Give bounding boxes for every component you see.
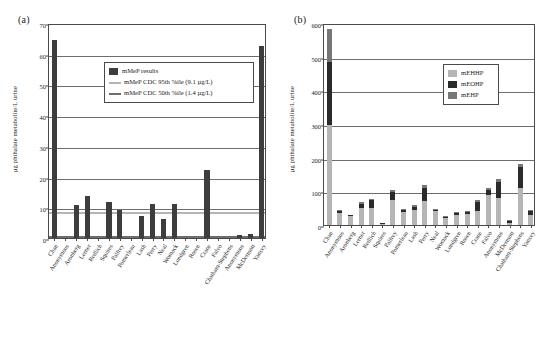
bar-palfrey (390, 25, 395, 225)
bar-segment-mehhp (337, 213, 342, 225)
bar-segment-mehhp (528, 215, 533, 225)
bar-segment-mehhp (465, 214, 470, 225)
panel-a-bars (49, 25, 265, 238)
bar-segment-meohp (327, 62, 332, 125)
x-tick-mark (262, 238, 263, 241)
bar-chatham-stephens (518, 25, 523, 225)
x-tick-mark (76, 238, 77, 241)
bar-segment-mehp (475, 200, 480, 202)
y-tick-mark (46, 178, 49, 179)
bar-segment-meohp (518, 167, 523, 188)
x-tick-mark (131, 238, 132, 241)
bar-segment-meohp (433, 210, 438, 211)
legend-item-cdc-95th: mMeP CDC 95th %ile (9.1 µg/L) (109, 77, 248, 88)
legend-item-mmep-results: mMeP results (109, 66, 248, 77)
bar-segment-mehp (422, 185, 427, 188)
bar-segment-mehhp (369, 208, 374, 226)
bar-segment-mehhp (390, 200, 395, 225)
x-tick-mark (207, 238, 208, 241)
bar-anonymous (237, 25, 242, 238)
x-tick-mark (120, 238, 121, 241)
bar-segment-meohp (475, 202, 480, 210)
bar-segment-meohp (454, 213, 459, 215)
x-tick-mark (499, 225, 500, 228)
bar-segment-mehp (359, 202, 364, 203)
y-tick-mark (46, 55, 49, 56)
bar-segment-mehhp (412, 210, 417, 225)
y-tick-mark (46, 240, 49, 241)
bar-segment-mehp (496, 179, 501, 182)
legend-label: mEHP (461, 92, 479, 99)
bar-segment-mehhp (359, 208, 364, 225)
bar-rosen (465, 25, 470, 225)
x-tick-mark (340, 225, 341, 228)
y-tick-mark (321, 58, 324, 59)
x-tick-mark (467, 225, 468, 228)
legend-label: mMeP results (122, 68, 158, 75)
x-tick-mark (446, 225, 447, 228)
bar-segment-mmep results (259, 46, 264, 238)
bar-redlich (369, 25, 374, 225)
bar-segment-mehhp (486, 195, 491, 225)
x-tick-mark (251, 238, 252, 241)
bar-segment-meohp (390, 192, 395, 200)
bar-segment-mehp (528, 210, 533, 211)
bar-yancey (259, 25, 264, 238)
bar-palfrey (117, 25, 122, 238)
x-tick-mark (361, 225, 362, 228)
bar-segment-mehp (486, 188, 491, 190)
bar-squires (106, 25, 111, 238)
legend-line-icon (109, 82, 121, 84)
bar-anonymous (63, 25, 68, 238)
x-tick-mark (218, 238, 219, 241)
x-tick-mark (351, 225, 352, 228)
bar-aronberg (348, 25, 353, 225)
bar-segment-mehhp (433, 211, 438, 225)
bar-pomerleau (128, 25, 133, 238)
y-tick-mark (321, 25, 324, 26)
y-tick-mark (46, 25, 49, 26)
x-tick-mark (98, 238, 99, 241)
legend-swatch-icon (448, 70, 457, 77)
bar-perry (150, 25, 155, 238)
panel-a: (a) µg phthalate metabolite/L urine 0102… (0, 0, 275, 340)
x-tick-mark (510, 225, 511, 228)
legend-item-mehp: mEHP (448, 90, 493, 101)
bar-lerner (359, 25, 364, 225)
y-tick-mark (46, 147, 49, 148)
bar-falvo (215, 25, 220, 238)
x-tick-mark (229, 238, 230, 241)
bar-segment-mmep results (117, 210, 122, 238)
bar-segment-mehp (412, 205, 417, 206)
bar-segment-mmep results (172, 204, 177, 238)
x-tick-mark (196, 238, 197, 241)
bar-pomerleau (401, 25, 406, 225)
bar-crane (475, 25, 480, 225)
bar-segment-meohp (337, 211, 342, 213)
x-tick-mark (457, 225, 458, 228)
x-tick-mark (414, 225, 415, 228)
bar-segment-mehp (507, 220, 512, 221)
bar-segment-mehp (518, 164, 523, 167)
bar-segment-meohp (369, 200, 374, 207)
bar-neal (433, 25, 438, 225)
legend-label: mEHHP (461, 70, 483, 77)
x-tick-mark (153, 238, 154, 241)
bar-segment-meohp (496, 182, 501, 199)
bar-segment-mehhp (422, 201, 427, 225)
legend-label: mMeP CDC 95th %ile (9.1 µg/L) (124, 79, 213, 86)
bar-segment-mehp (390, 190, 395, 192)
legend-item-cdc-50th: mMeP CDC 50th %ile (1.4 µg/L) (109, 88, 248, 99)
bar-segment-meohp (401, 210, 406, 212)
bar-segment-mehhp (496, 198, 501, 225)
bar-lash (139, 25, 144, 238)
bar-segment-meohp (528, 211, 533, 215)
x-tick-mark (185, 238, 186, 241)
y-tick-mark (46, 86, 49, 87)
y-tick-mark (46, 209, 49, 210)
x-tick-mark (425, 225, 426, 228)
legend-item-mehhp: mEHHP (448, 68, 493, 79)
bar-mcdermott (248, 25, 253, 238)
bar-segment-mmep results (52, 40, 57, 238)
bar-segment-mehp (401, 209, 406, 210)
